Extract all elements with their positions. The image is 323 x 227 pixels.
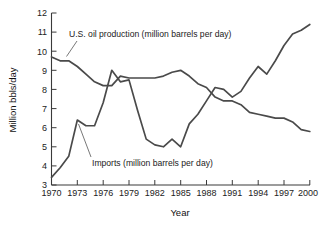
y-tick-label-4: 4 <box>42 161 47 171</box>
x-tick-label-1973: 1973 <box>67 188 87 198</box>
x-tick-label-1985: 1985 <box>171 188 191 198</box>
y-axis-title: Million bbls/day <box>7 67 18 132</box>
imports-leader-line <box>79 124 92 157</box>
y-tick-marks <box>52 13 57 185</box>
x-tick-label-1982: 1982 <box>145 188 165 198</box>
y-tick-label-7: 7 <box>42 104 47 114</box>
x-tick-label-1979: 1979 <box>119 188 139 198</box>
y-tick-label-6: 6 <box>42 123 47 133</box>
production-leader-line <box>67 41 78 57</box>
annotation-imports: Imports (million barrels per day) <box>79 124 213 168</box>
imports-annotation-label: Imports (million barrels per day) <box>92 158 213 168</box>
x-tick-label-2000: 2000 <box>298 188 318 198</box>
y-tick-label-5: 5 <box>42 142 47 152</box>
y-tick-label-12: 12 <box>37 8 47 18</box>
x-axis-title: Year <box>170 207 189 218</box>
x-tick-marks <box>52 180 310 185</box>
x-tick-label-1997: 1997 <box>274 188 294 198</box>
x-tick-label-1991: 1991 <box>222 188 242 198</box>
x-tick-label-1994: 1994 <box>248 188 268 198</box>
y-tick-labels: 12 11 10 9 8 7 6 5 4 3 <box>37 8 47 190</box>
annotation-production: U.S. oil production (million barrels per… <box>67 29 232 57</box>
x-tick-label-1970: 1970 <box>41 188 61 198</box>
x-tick-label-1976: 1976 <box>93 188 113 198</box>
y-tick-label-8: 8 <box>42 85 47 95</box>
x-tick-label-1988: 1988 <box>196 188 216 198</box>
y-tick-label-11: 11 <box>38 27 47 37</box>
production-annotation-label: U.S. oil production (million barrels per… <box>69 29 232 39</box>
x-tick-labels: 1970 1973 1976 1979 1982 1985 1988 1991 … <box>41 188 318 198</box>
oil-production-imports-line-chart: 12 11 10 9 8 7 6 5 4 3 1970 <box>0 0 323 227</box>
y-tick-label-9: 9 <box>42 66 47 76</box>
y-tick-label-10: 10 <box>37 47 47 57</box>
chart-figure: 12 11 10 9 8 7 6 5 4 3 1970 <box>0 0 323 227</box>
